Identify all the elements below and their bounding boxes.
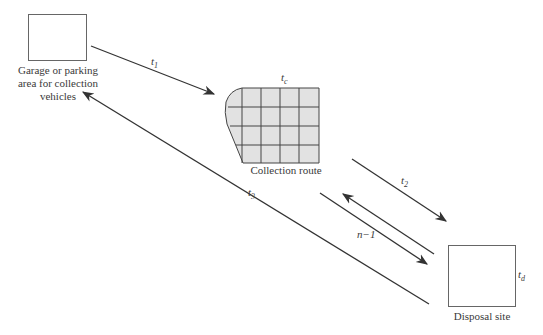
tc-label: tc: [281, 71, 288, 86]
disposal-site-label: Disposal site: [440, 310, 524, 323]
disposal-box: [449, 246, 516, 307]
garage-label: Garage or parking area for collection ve…: [0, 64, 116, 103]
arrow-t2: [352, 159, 446, 221]
collection-route-grid: [225, 88, 319, 163]
arrow-n-1-back: [343, 194, 434, 254]
garage-label-line1: Garage or parking: [0, 64, 116, 77]
garage-label-line3: vehicles: [0, 90, 116, 103]
td-label: td: [518, 268, 525, 283]
collection-route-label: Collection route: [236, 164, 336, 177]
n-minus-1-label: n−1: [357, 228, 375, 240]
garage-label-line2: area for collection: [0, 77, 116, 90]
t3-label: t3: [248, 186, 255, 201]
garage-box: [29, 15, 87, 61]
t1-label: t1: [151, 55, 158, 70]
t2-label: t2: [401, 174, 408, 189]
